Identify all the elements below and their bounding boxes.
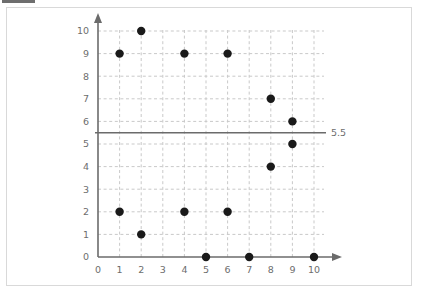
data-point [223, 208, 231, 216]
x-tick-label: 3 [160, 264, 166, 275]
x-tick-label: 6 [225, 264, 231, 275]
x-tick-label: 1 [117, 264, 123, 275]
data-point [267, 95, 275, 103]
x-tick-label: 2 [138, 264, 144, 275]
data-point [202, 253, 210, 261]
x-tick-label: 7 [246, 264, 252, 275]
x-tick-label: 8 [268, 264, 274, 275]
data-point [288, 140, 296, 148]
x-tick-label: 4 [181, 264, 187, 275]
x-tick-label: 9 [289, 264, 295, 275]
scatter-plot: 5.5012345678910012345678910 [7, 8, 413, 287]
heading-color-swatch [2, 0, 35, 3]
x-tick-label: 5 [203, 264, 209, 275]
data-point [137, 230, 145, 238]
y-tick-label: 2 [83, 206, 89, 217]
y-tick-label: 5 [83, 138, 89, 149]
data-point [310, 253, 318, 261]
data-point [267, 162, 275, 170]
y-tick-label: 4 [83, 161, 89, 172]
data-point [180, 208, 188, 216]
y-tick-label: 3 [83, 184, 89, 195]
x-tick-label: 10 [308, 264, 320, 275]
y-tick-label: 10 [77, 25, 89, 36]
data-point [115, 208, 123, 216]
data-point [288, 117, 296, 125]
y-tick-label: 1 [83, 229, 89, 240]
y-tick-label: 9 [83, 48, 89, 59]
x-tick-label: 0 [95, 264, 101, 275]
reference-line-label: 5.5 [331, 127, 346, 138]
data-point [223, 49, 231, 57]
data-point [115, 49, 123, 57]
y-tick-label: 0 [83, 251, 89, 262]
y-axis-arrowhead [94, 13, 102, 23]
data-point [245, 253, 253, 261]
y-tick-label: 8 [83, 71, 89, 82]
chart-card: 5.5012345678910012345678910 [6, 7, 412, 286]
heading-ghost-text: — — — — — — — — — [40, 0, 162, 2]
data-point [137, 27, 145, 35]
data-point [180, 49, 188, 57]
y-tick-label: 6 [83, 116, 89, 127]
y-tick-label: 7 [83, 93, 89, 104]
x-axis-arrowhead [332, 253, 342, 261]
cropped-heading-strip: — — — — — — — — — [0, 0, 421, 5]
